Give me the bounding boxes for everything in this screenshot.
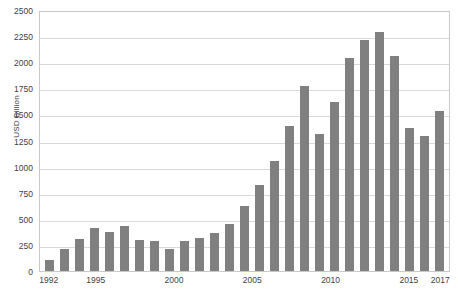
bar-slot (387, 12, 402, 271)
bar[interactable] (240, 206, 248, 271)
bar[interactable] (165, 249, 173, 271)
bar[interactable] (150, 241, 158, 271)
bar[interactable] (135, 240, 143, 271)
bar-slot (72, 12, 87, 271)
bar[interactable] (435, 111, 443, 271)
bar[interactable] (420, 136, 428, 271)
plot-area (39, 11, 450, 272)
bar-slot (87, 12, 102, 271)
bar[interactable] (195, 238, 203, 271)
bar-slot (147, 12, 162, 271)
bar[interactable] (45, 260, 53, 271)
bar-slot (42, 12, 57, 271)
bar[interactable] (390, 56, 398, 271)
bar[interactable] (405, 128, 413, 271)
x-axis-tick-label: 2017 (431, 276, 450, 285)
bar[interactable] (105, 232, 113, 271)
y-axis-tick-label: 2000 (0, 59, 33, 68)
bar[interactable] (285, 126, 293, 271)
x-axis-tick-label: 1995 (86, 276, 105, 285)
bar[interactable] (360, 40, 368, 271)
bar[interactable] (375, 32, 383, 271)
bar-slot (132, 12, 147, 271)
bar[interactable] (60, 249, 68, 271)
bar-slot (237, 12, 252, 271)
bar[interactable] (225, 224, 233, 271)
y-axis-tick-label: 1000 (0, 164, 33, 173)
bar-slot (372, 12, 387, 271)
x-axis-tick-label: 2010 (321, 276, 340, 285)
bar-slot (402, 12, 417, 271)
bar-slot (102, 12, 117, 271)
x-axis-tick-label: 2000 (165, 276, 184, 285)
bar-slot (222, 12, 237, 271)
x-axis-tick-labels: 1992199520002005201020152017 (39, 276, 450, 292)
bar-slot (117, 12, 132, 271)
x-axis-tick-label: 2005 (243, 276, 262, 285)
bar-slot (267, 12, 282, 271)
x-axis-tick-label: 1992 (39, 276, 58, 285)
x-axis-tick-label: 2015 (399, 276, 418, 285)
bar-slot (162, 12, 177, 271)
bar-slot (432, 12, 447, 271)
bar-slot (312, 12, 327, 271)
bar[interactable] (75, 239, 83, 271)
bar[interactable] (315, 134, 323, 271)
y-axis-tick-label: 1500 (0, 111, 33, 120)
y-axis-tick-label: 0 (0, 268, 33, 277)
bar[interactable] (180, 241, 188, 271)
bar-series (40, 12, 449, 271)
bar[interactable] (120, 226, 128, 271)
y-axis-tick-label: 2250 (0, 33, 33, 42)
y-axis-tick-label: 500 (0, 216, 33, 225)
bar-slot (192, 12, 207, 271)
bar[interactable] (345, 58, 353, 271)
bar-slot (327, 12, 342, 271)
bar-slot (417, 12, 432, 271)
y-axis-tick-label: 250 (0, 242, 33, 251)
y-axis-tick-label: 2500 (0, 7, 33, 16)
bar[interactable] (255, 185, 263, 271)
y-axis-tick-label: 1750 (0, 85, 33, 94)
y-axis-tick-label: 1250 (0, 138, 33, 147)
bar[interactable] (210, 233, 218, 271)
bar[interactable] (270, 161, 278, 271)
bar-slot (252, 12, 267, 271)
bar-slot (342, 12, 357, 271)
bar-slot (282, 12, 297, 271)
bar-slot (57, 12, 72, 271)
bar-slot (357, 12, 372, 271)
bar[interactable] (330, 102, 338, 271)
bar-chart: USD Billion 2500225020001750150012501000… (0, 0, 458, 305)
bar-slot (207, 12, 222, 271)
y-axis-tick-label: 750 (0, 190, 33, 199)
bar-slot (177, 12, 192, 271)
bar[interactable] (90, 228, 98, 272)
bar-slot (297, 12, 312, 271)
bar[interactable] (300, 86, 308, 271)
